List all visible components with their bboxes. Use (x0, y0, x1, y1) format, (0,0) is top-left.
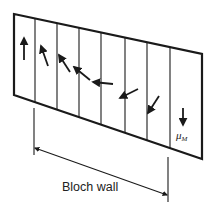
moment-arrow-icon (93, 82, 113, 84)
bloch-wall-diagram: Bloch wall μM (0, 0, 214, 214)
moment-label: μM (175, 129, 189, 143)
moment-subscript: M (181, 135, 189, 143)
moment-arrow-icon (120, 89, 138, 98)
moment-arrow-icon (148, 96, 159, 113)
domain-wall-panel (14, 14, 202, 159)
moment-arrow-icon (41, 46, 48, 66)
bloch-wall-label: Bloch wall (62, 180, 118, 194)
moment-arrow-icon (59, 55, 70, 72)
moment-arrow-icon (74, 67, 90, 80)
panel-outline (14, 14, 202, 159)
magnetic-moment-arrows (24, 38, 183, 125)
